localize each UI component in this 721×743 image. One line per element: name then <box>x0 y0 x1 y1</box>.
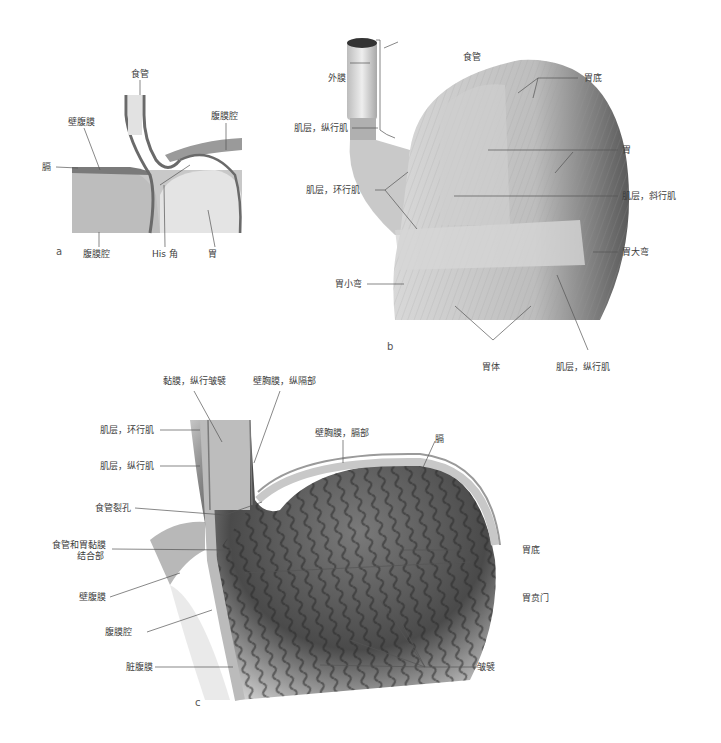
panel-c-diagram <box>150 420 500 700</box>
panel-letter-a: a <box>56 246 62 257</box>
label-muscle-longitudinal-b-top: 肌层，纵行肌 <box>294 123 348 134</box>
label-esophageal-hiatus: 食管裂孔 <box>95 503 131 514</box>
label-diaphragm-a: 膈 <box>42 162 51 173</box>
label-lesser-curvature: 胃小弯 <box>335 279 362 290</box>
label-visceral-peritoneum: 脏腹膜 <box>126 662 153 673</box>
label-diaphragmatic-pleura: 壁胸膜，膈部 <box>315 428 369 439</box>
label-stomach-a: 胃 <box>208 249 217 260</box>
label-fundus-c: 胃底 <box>522 545 540 556</box>
label-parietal-peritoneum-c: 壁腹膜 <box>79 592 106 603</box>
label-esophagus-a: 食管 <box>131 69 149 80</box>
label-muscle-circular-c: 肌层，环行肌 <box>100 425 154 436</box>
label-muscle-longitudinal-c: 肌层，纵行肌 <box>100 461 154 472</box>
label-his-angle: His 角 <box>152 249 178 260</box>
label-greater-curvature: 胃大弯 <box>622 247 649 258</box>
label-diaphragm-c: 膈 <box>435 434 444 445</box>
label-rugae: 皱襞 <box>477 662 495 673</box>
label-peritoneal-cavity-c: 腹膜腔 <box>105 627 132 638</box>
label-mucosa-folds: 黏膜，纵行皱襞 <box>163 376 226 387</box>
label-muscle-circular-b: 肌层，环行肌 <box>306 185 360 196</box>
panel-letter-c: c <box>195 697 201 708</box>
label-fundus-b: 胃底 <box>584 73 602 84</box>
label-junction-line1: 食管和胃黏膜 <box>52 540 106 551</box>
label-adventitia: 外膜 <box>328 73 346 84</box>
label-stomach-b: 胃 <box>622 145 631 156</box>
label-cardia: 胃贲门 <box>522 593 549 604</box>
label-mediastinal-pleura: 壁胸膜，纵隔部 <box>253 376 316 387</box>
panel-letter-b: b <box>387 341 393 352</box>
label-stomach-body: 胃体 <box>482 362 500 373</box>
label-muscle-longitudinal-b-bottom: 肌层，纵行肌 <box>556 362 610 373</box>
label-esophagus-b: 食管 <box>463 52 481 63</box>
label-junction-line2: 结合部 <box>77 551 104 562</box>
label-muscle-oblique: 肌层，斜行肌 <box>622 191 676 202</box>
label-peritoneal-cavity-a-top: 腹膜腔 <box>211 111 238 122</box>
label-peritoneal-cavity-a-bottom: 腹膜腔 <box>83 249 110 260</box>
label-parietal-peritoneum-a: 壁腹膜 <box>68 117 95 128</box>
